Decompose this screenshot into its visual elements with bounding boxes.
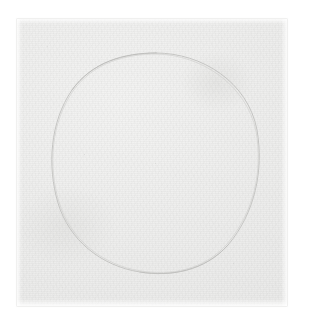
paper-sheet	[17, 19, 287, 306]
paper-grain-texture	[17, 19, 287, 306]
scan-canvas	[0, 0, 311, 324]
paper-edge-feather	[17, 19, 287, 306]
paper-lighting-mottle	[17, 19, 287, 306]
